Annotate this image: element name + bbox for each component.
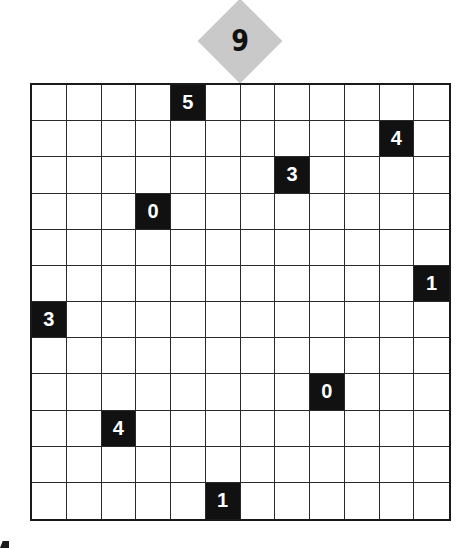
grid-cell[interactable] [275, 302, 310, 338]
grid-cell[interactable] [102, 447, 137, 483]
grid-cell[interactable] [241, 374, 276, 410]
grid-cell[interactable] [380, 230, 415, 266]
grid-cell[interactable] [67, 338, 102, 374]
grid-cell[interactable] [171, 302, 206, 338]
grid-cell[interactable] [136, 230, 171, 266]
grid-cell[interactable] [310, 85, 345, 121]
grid-cell[interactable] [380, 447, 415, 483]
grid-cell[interactable] [345, 338, 380, 374]
grid-cell[interactable] [345, 194, 380, 230]
grid-cell[interactable] [206, 411, 241, 447]
grid-cell[interactable] [345, 266, 380, 302]
grid-cell[interactable] [206, 230, 241, 266]
grid-cell[interactable] [241, 85, 276, 121]
grid-cell[interactable] [275, 411, 310, 447]
grid-cell[interactable] [380, 374, 415, 410]
grid-cell[interactable] [310, 302, 345, 338]
grid-cell[interactable] [171, 157, 206, 193]
grid-cell[interactable] [32, 194, 67, 230]
grid-cell[interactable] [414, 483, 449, 519]
grid-cell[interactable] [67, 374, 102, 410]
grid-cell[interactable] [171, 374, 206, 410]
grid-cell[interactable] [171, 483, 206, 519]
grid-cell[interactable] [275, 447, 310, 483]
grid-cell[interactable] [414, 338, 449, 374]
grid-cell[interactable] [32, 157, 67, 193]
grid-cell[interactable] [171, 230, 206, 266]
grid-cell[interactable] [206, 447, 241, 483]
grid-cell[interactable] [32, 266, 67, 302]
grid-cell[interactable] [380, 194, 415, 230]
grid-cell[interactable] [310, 157, 345, 193]
grid-cell[interactable] [206, 266, 241, 302]
grid-cell[interactable] [171, 411, 206, 447]
grid-cell[interactable] [32, 411, 67, 447]
grid-cell[interactable] [310, 483, 345, 519]
grid-cell[interactable] [67, 483, 102, 519]
grid-cell[interactable] [136, 447, 171, 483]
grid-cell[interactable] [102, 85, 137, 121]
grid-cell[interactable] [380, 411, 415, 447]
grid-cell[interactable] [310, 338, 345, 374]
grid-cell[interactable] [206, 85, 241, 121]
grid-cell[interactable] [345, 447, 380, 483]
grid-cell[interactable] [414, 447, 449, 483]
grid-cell[interactable] [171, 447, 206, 483]
grid-cell[interactable] [171, 194, 206, 230]
grid-cell[interactable] [380, 157, 415, 193]
grid-cell[interactable] [241, 230, 276, 266]
grid-cell[interactable] [102, 338, 137, 374]
grid-cell[interactable] [67, 302, 102, 338]
grid-cell[interactable] [380, 338, 415, 374]
grid-cell[interactable] [102, 374, 137, 410]
grid-cell[interactable] [206, 157, 241, 193]
grid-cell[interactable] [206, 121, 241, 157]
grid-cell[interactable] [380, 266, 415, 302]
grid-cell[interactable] [67, 85, 102, 121]
grid-cell[interactable] [102, 483, 137, 519]
grid-cell[interactable] [310, 447, 345, 483]
grid-cell[interactable] [380, 85, 415, 121]
grid-cell[interactable] [32, 121, 67, 157]
grid-cell[interactable] [32, 230, 67, 266]
grid-cell[interactable] [275, 194, 310, 230]
grid-cell[interactable] [380, 483, 415, 519]
grid-cell[interactable] [67, 447, 102, 483]
grid-cell[interactable] [206, 338, 241, 374]
grid-cell[interactable] [310, 194, 345, 230]
grid-cell[interactable] [102, 230, 137, 266]
grid-cell[interactable] [414, 85, 449, 121]
grid-cell[interactable] [67, 121, 102, 157]
grid-cell[interactable] [345, 411, 380, 447]
grid-cell[interactable] [345, 121, 380, 157]
grid-cell[interactable] [67, 157, 102, 193]
grid-cell[interactable] [102, 157, 137, 193]
grid-cell[interactable] [67, 411, 102, 447]
grid-cell[interactable] [275, 85, 310, 121]
grid-cell[interactable] [241, 157, 276, 193]
grid-cell[interactable] [241, 302, 276, 338]
grid-cell[interactable] [32, 447, 67, 483]
grid-cell[interactable] [171, 266, 206, 302]
grid-cell[interactable] [345, 85, 380, 121]
grid-cell[interactable] [32, 85, 67, 121]
grid-cell[interactable] [67, 194, 102, 230]
grid-cell[interactable] [67, 266, 102, 302]
grid-cell[interactable] [136, 483, 171, 519]
grid-cell[interactable] [136, 266, 171, 302]
grid-cell[interactable] [414, 194, 449, 230]
grid-cell[interactable] [136, 411, 171, 447]
grid-cell[interactable] [241, 411, 276, 447]
grid-cell[interactable] [241, 121, 276, 157]
grid-cell[interactable] [171, 121, 206, 157]
grid-cell[interactable] [32, 374, 67, 410]
grid-cell[interactable] [414, 302, 449, 338]
grid-cell[interactable] [102, 194, 137, 230]
grid-cell[interactable] [310, 121, 345, 157]
grid-cell[interactable] [414, 157, 449, 193]
grid-cell[interactable] [310, 266, 345, 302]
grid-cell[interactable] [136, 374, 171, 410]
grid-cell[interactable] [345, 230, 380, 266]
grid-cell[interactable] [345, 157, 380, 193]
grid-cell[interactable] [67, 230, 102, 266]
